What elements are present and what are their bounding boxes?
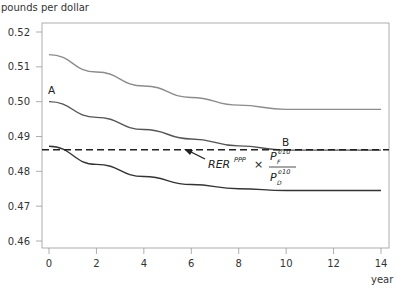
formula-num-sub: F [277, 158, 281, 165]
x-tick-label: 6 [188, 258, 194, 269]
plot-frame [42, 23, 389, 248]
y-tick-label: 0.50 [8, 96, 30, 107]
y-tick-label: 0.47 [8, 201, 30, 212]
formula-times: × [254, 158, 263, 171]
y-tick-label: 0.52 [8, 27, 30, 38]
x-tick-label: 14 [375, 258, 388, 269]
series-line-0 [49, 55, 381, 110]
formula-den-sup: e10 [278, 168, 290, 176]
x-tick-label: 10 [280, 258, 293, 269]
y-tick-label: 0.48 [8, 166, 30, 177]
x-tick-label: 12 [327, 258, 340, 269]
x-tick-label: 0 [46, 258, 52, 269]
formula-label: RER PPP × P e10 F P e10 D [208, 148, 296, 186]
formula-den-p: P [270, 171, 277, 184]
x-tick-label: 2 [93, 258, 99, 269]
y-axis-label: pounds per dollar [1, 2, 90, 13]
y-tick-label: 0.51 [8, 61, 30, 72]
formula-rer: RER [208, 158, 230, 171]
x-tick-label: 4 [141, 258, 147, 269]
x-axis-label: year [371, 274, 394, 285]
formula-num-p: P [270, 150, 277, 163]
chart: pounds per dollar 0.520.510.500.490.480.… [0, 0, 397, 293]
y-tick-label: 0.49 [8, 131, 30, 142]
point-a-label: A [48, 84, 56, 96]
point-b-label: B [282, 136, 289, 148]
y-axis: 0.520.510.500.490.480.470.46 [8, 27, 42, 247]
x-axis: 02468101214 [46, 248, 388, 269]
formula-den-sub: D [277, 179, 282, 186]
formula-num-sup: e10 [278, 148, 290, 156]
x-tick-label: 8 [236, 258, 242, 269]
svg-text:RER: RER [208, 158, 230, 171]
formula-rer-sup: PPP [234, 156, 246, 164]
y-tick-label: 0.46 [8, 236, 30, 247]
